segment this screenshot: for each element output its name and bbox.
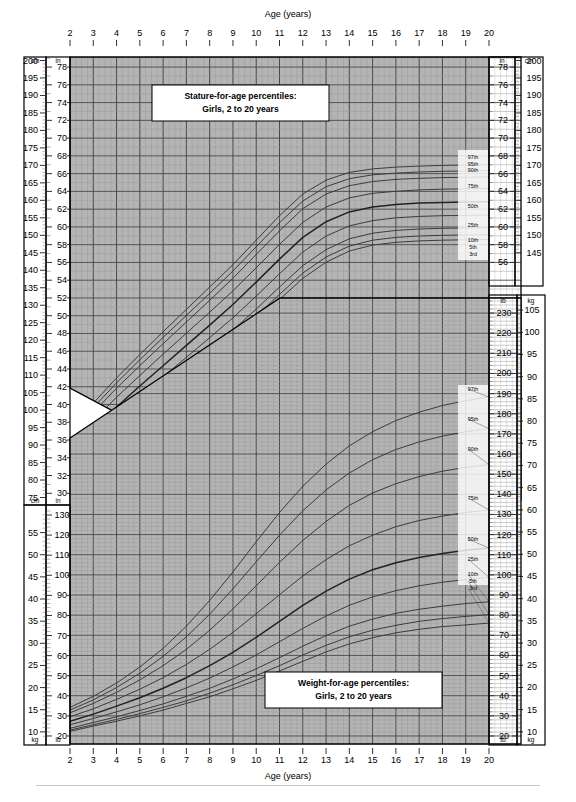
weight-right-lb-tick-50: 50: [499, 671, 509, 681]
stature-cm-tick-155: 155: [23, 213, 38, 223]
x-tick-label-top-19: 19: [461, 28, 471, 38]
weight-kg-tick-20: 20: [28, 683, 38, 693]
stature-in-tick-40: 40: [57, 400, 67, 410]
weight-right-kg-tick-90: 90: [527, 372, 537, 382]
stature-cm-tick-170: 170: [23, 160, 38, 170]
weight-kg-tick-25: 25: [28, 660, 38, 670]
weight-right-lb-tick-160: 160: [496, 449, 511, 459]
weight-kg-tick-15: 15: [28, 705, 38, 715]
stature-in-tick-56: 56: [57, 257, 67, 267]
weight-kg-tick-10: 10: [28, 727, 38, 737]
weight-right-lb-tick-130: 130: [496, 509, 511, 519]
x-tick-label-top-5: 5: [137, 28, 142, 38]
weight-right-lb-tick-190: 190: [496, 389, 511, 399]
stature-right-cm-tick-185: 185: [526, 108, 541, 118]
age-axis-label-bottom: Age (years): [265, 771, 312, 781]
stature-percentile-label-95th: 95th: [468, 161, 478, 167]
weight-right-kg-tick-15: 15: [527, 705, 537, 715]
x-tick-label-top-18: 18: [437, 28, 447, 38]
stature-right-in-tick-64: 64: [498, 186, 508, 196]
stature-cm-tick-150: 150: [23, 230, 38, 240]
stature-right-cm-tick-190: 190: [526, 90, 541, 100]
weight-right-lb-tick-230: 230: [496, 308, 511, 318]
weight-right-lb-tick-200: 200: [496, 368, 511, 378]
stature-right-in-tick-70: 70: [498, 133, 508, 143]
stature-right-in-tick-78: 78: [498, 62, 508, 72]
stature-in-tick-70: 70: [57, 133, 67, 143]
growth-chart-page: Age (years) Age (years) 2345678910111213…: [0, 0, 576, 802]
weight-right-kg-tick-75: 75: [527, 438, 537, 448]
stature-cm-tick-95: 95: [28, 423, 38, 433]
stature-right-in-tick-60: 60: [498, 222, 508, 232]
stature-cm-tick-115: 115: [24, 353, 38, 363]
stature-cm-tick-200: 200: [23, 56, 38, 66]
weight-kg-tick-50: 50: [28, 550, 38, 560]
x-tick-label-bottom-5: 5: [137, 755, 142, 765]
x-tick-label-top-14: 14: [344, 28, 354, 38]
stature-in-tick-68: 68: [57, 151, 67, 161]
stature-cm-tick-165: 165: [23, 178, 38, 188]
x-tick-label-top-17: 17: [414, 28, 424, 38]
weight-right-kg-tick-30: 30: [527, 638, 537, 648]
weight-right-lb-tick-170: 170: [496, 429, 511, 439]
x-tick-label-top-10: 10: [251, 28, 261, 38]
weight-percentile-label-5th: 5th: [469, 578, 476, 584]
weight-right-lb-tick-60: 60: [499, 650, 509, 660]
stature-in-tick-38: 38: [57, 417, 67, 427]
stature-cm-tick-110: 110: [24, 370, 38, 380]
weight-percentile-label-97th: 97th: [468, 386, 478, 392]
stature-in-tick-52: 52: [57, 293, 67, 303]
weight-right-kg-tick-70: 70: [527, 460, 537, 470]
stature-cm-tick-105: 105: [23, 388, 38, 398]
stature-cm-tick-130: 130: [23, 300, 38, 310]
weight-right-lb-tick-120: 120: [496, 530, 511, 540]
stature-in-tick-34: 34: [57, 453, 67, 463]
stature-right-in-tick-74: 74: [498, 98, 508, 108]
stature-right-in-tick-66: 66: [498, 169, 508, 179]
stature-cm-tick-195: 195: [23, 73, 38, 83]
stature-in-tick-74: 74: [57, 98, 67, 108]
weight-right-lb-tick-90: 90: [499, 590, 509, 600]
weight-right-kg-tick-85: 85: [527, 394, 537, 404]
weight-lb-tick-80: 80: [57, 610, 67, 620]
x-tick-label-bottom-13: 13: [321, 755, 331, 765]
x-tick-label-top-9: 9: [230, 28, 235, 38]
weight-percentile-label-10th: 10th: [468, 571, 478, 577]
x-tick-label-bottom-2: 2: [67, 755, 72, 765]
stature-in-tick-32: 32: [57, 471, 67, 481]
stature-percentile-label-97th: 97th: [468, 154, 478, 160]
x-tick-label-top-4: 4: [114, 28, 119, 38]
weight-right-lb-tick-140: 140: [496, 489, 511, 499]
weight-lb-tick-90: 90: [57, 590, 67, 600]
stature-title-box: Stature-for-age percentiles: Girls, 2 to…: [152, 85, 329, 121]
weight-title-line2: Girls, 2 to 20 years: [315, 691, 392, 701]
weight-percentile-label-75th: 75th: [468, 495, 478, 501]
x-tick-label-bottom-14: 14: [344, 755, 354, 765]
x-tick-label-bottom-6: 6: [161, 755, 166, 765]
weight-right-lb-tick-210: 210: [496, 348, 511, 358]
weight-lb-tick-20: 20: [57, 731, 67, 741]
weight-right-kg-tick-65: 65: [527, 483, 537, 493]
stature-in-tick-72: 72: [57, 115, 67, 125]
weight-lb-tick-30: 30: [57, 711, 67, 721]
stature-right-cm-tick-155: 155: [526, 213, 541, 223]
weight-right-kg-tick-10: 10: [527, 727, 537, 737]
x-tick-label-bottom-18: 18: [437, 755, 447, 765]
x-tick-label-top-15: 15: [368, 28, 378, 38]
x-tick-label-top-20: 20: [484, 28, 494, 38]
stature-title-line1: Stature-for-age percentiles:: [184, 91, 296, 101]
stature-right-cm-tick-195: 195: [526, 73, 541, 83]
x-tick-label-bottom-15: 15: [368, 755, 378, 765]
x-tick-label-top-6: 6: [161, 28, 166, 38]
x-tick-label-bottom-4: 4: [114, 755, 119, 765]
stature-in-tick-64: 64: [57, 186, 67, 196]
weight-lb-tick-50: 50: [57, 671, 67, 681]
stature-cm-tick-80: 80: [28, 475, 38, 485]
stature-cm-tick-180: 180: [23, 125, 38, 135]
weight-right-lb-tick-180: 180: [496, 409, 511, 419]
weight-percentile-label-90th: 90th: [468, 446, 478, 452]
stature-right-in-tick-56: 56: [498, 257, 508, 267]
weight-percentile-label-50th: 50th: [468, 536, 478, 542]
stature-cm-tick-75: 75: [28, 493, 38, 503]
age-axis-label-top: Age (years): [265, 9, 312, 19]
